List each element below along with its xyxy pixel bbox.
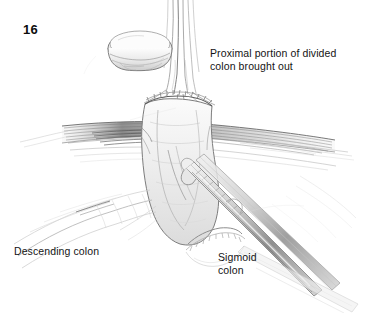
surgical-figure: 16 Proximal portion of divided colon bro… [0,0,390,313]
label-descending-colon: Descending colon [14,245,99,258]
figure-number: 16 [23,22,38,37]
label-sigmoid-colon: Sigmoid colon [218,251,257,277]
divided-colon-stump [108,31,172,71]
label-proximal-portion: Proximal portion of divided colon brough… [210,47,336,73]
